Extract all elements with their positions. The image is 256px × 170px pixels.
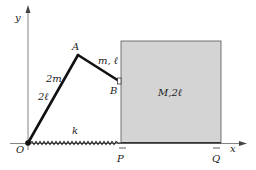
point-A-label: A (71, 41, 79, 52)
contact-B (118, 78, 122, 84)
rod-OA-length-label: 2ℓ (37, 91, 49, 102)
rod-OA (28, 55, 78, 143)
rod-OA-mass-label: 2m (45, 73, 62, 84)
origin-label: O (16, 144, 24, 155)
point-Q-label: Q (212, 153, 220, 164)
y-axis-arrow-icon (26, 5, 31, 13)
y-axis-label: y (14, 12, 21, 23)
x-axis-arrow-icon (239, 141, 247, 146)
spring (30, 142, 121, 145)
pivot-O (25, 140, 31, 146)
block-label: M,2ℓ (157, 87, 182, 98)
mechanics-diagram: y x O A B m, ℓ 2m 2ℓ M,2ℓ k P Q (0, 0, 256, 170)
point-B-label: B (109, 85, 117, 96)
spring-label: k (72, 125, 78, 136)
point-P-label: P (116, 153, 124, 164)
rod-AB-label: m, ℓ (98, 55, 118, 66)
x-axis-label: x (230, 143, 236, 154)
